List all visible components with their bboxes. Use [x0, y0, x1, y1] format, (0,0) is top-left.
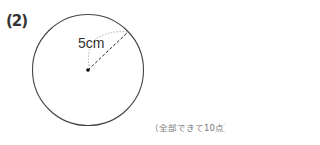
score-note: （全部できて10点）: [150, 121, 225, 133]
radius-label: 5cm: [78, 35, 104, 51]
center-point: [86, 68, 90, 72]
